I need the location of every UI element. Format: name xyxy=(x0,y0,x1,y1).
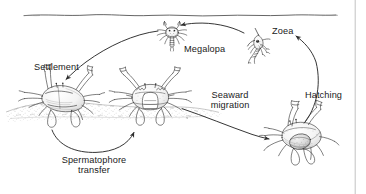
megalopa-larva xyxy=(157,22,187,51)
crab-life-cycle-figure: Settlement Megalopa Zoea Hatching Seawar… xyxy=(0,0,366,194)
zoea-larva xyxy=(248,28,270,63)
arrow-settlement xyxy=(66,31,158,79)
label-megalopa: Megalopa xyxy=(184,44,225,54)
label-settlement: Settlement xyxy=(34,62,79,72)
label-seaward-migration-line2: migration xyxy=(199,100,261,110)
label-hatching: Hatching xyxy=(305,90,342,100)
sediment-bed xyxy=(6,102,222,122)
arrow-spermatophore-transfer xyxy=(52,130,134,152)
water-surface-line xyxy=(24,15,338,16)
ovigerous-crab xyxy=(260,100,339,165)
label-spermatophore-transfer-line2: transfer xyxy=(48,165,140,175)
label-spermatophore-transfer-line1: Spermatophore xyxy=(48,155,140,165)
label-seaward-migration-line1: Seaward xyxy=(199,90,261,100)
arrow-hatching xyxy=(296,36,318,128)
arrow-zoea-to-megalopa xyxy=(181,23,244,33)
arrow-seaward-migration xyxy=(182,109,269,139)
label-zoea: Zoea xyxy=(272,26,293,36)
